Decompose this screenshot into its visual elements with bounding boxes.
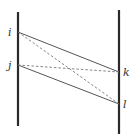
ladder-diagram: i j k l: [0, 0, 139, 138]
point-label-i: i: [8, 26, 12, 39]
point-label-l: l: [123, 98, 127, 111]
edge-i-l-dashed: [18, 32, 119, 104]
point-label-j: j: [5, 59, 12, 72]
point-label-k: k: [123, 66, 130, 79]
